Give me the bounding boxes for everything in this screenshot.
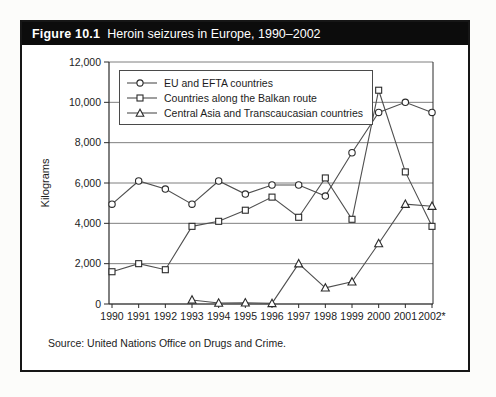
source-note: Source: United Nations Office on Drugs a… xyxy=(48,337,286,349)
svg-text:1998: 1998 xyxy=(314,310,338,322)
legend-item-balkan-route: Countries along the Balkan route xyxy=(127,91,363,104)
svg-text:2002*: 2002* xyxy=(418,310,445,322)
svg-text:1997: 1997 xyxy=(287,310,311,322)
svg-text:2001: 2001 xyxy=(394,310,418,322)
svg-text:1994: 1994 xyxy=(207,310,231,322)
svg-text:1991: 1991 xyxy=(127,310,151,322)
svg-text:10,000: 10,000 xyxy=(69,96,101,108)
svg-text:1992: 1992 xyxy=(154,310,178,322)
svg-text:12,000: 12,000 xyxy=(69,56,101,68)
circle-marker-icon xyxy=(127,78,157,88)
svg-text:1990: 1990 xyxy=(100,310,124,322)
chart-legend: EU and EFTA countries Countries along th… xyxy=(119,70,373,125)
svg-text:2,000: 2,000 xyxy=(75,257,101,269)
svg-text:1999: 1999 xyxy=(340,310,364,322)
svg-text:1993: 1993 xyxy=(180,310,204,322)
svg-text:1995: 1995 xyxy=(234,310,258,322)
square-marker-icon xyxy=(127,93,157,103)
y-axis-label: Kilograms xyxy=(39,159,51,208)
svg-text:6,000: 6,000 xyxy=(75,177,101,189)
svg-text:4,000: 4,000 xyxy=(75,217,101,229)
svg-text:8,000: 8,000 xyxy=(75,136,101,148)
legend-label: Countries along the Balkan route xyxy=(164,92,317,104)
legend-item-eu-efta: EU and EFTA countries xyxy=(127,76,363,89)
legend-item-central-asia: Central Asia and Transcaucasian countrie… xyxy=(127,106,363,119)
triangle-marker-icon xyxy=(127,108,157,118)
legend-label: Central Asia and Transcaucasian countrie… xyxy=(164,107,363,119)
svg-text:1996: 1996 xyxy=(260,310,284,322)
figure-screenshot: Figure 10.1 Heroin seizures in Europe, 1… xyxy=(0,0,496,397)
svg-text:2000: 2000 xyxy=(367,310,391,322)
legend-label: EU and EFTA countries xyxy=(164,77,273,89)
svg-text:0: 0 xyxy=(95,298,101,310)
